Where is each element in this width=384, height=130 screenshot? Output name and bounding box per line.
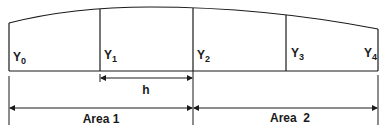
h-label: h (142, 83, 149, 97)
trapezoidal-area-diagram: Y0 Y1 Y2 Y3 Y4 h Area 1 Area 2 (0, 0, 384, 130)
label-y3: Y3 (291, 46, 304, 62)
area1-label: Area 1 (83, 112, 120, 126)
label-y4: Y4 (364, 46, 377, 62)
label-y2: Y2 (197, 48, 210, 64)
area2-label: Area 2 (270, 111, 310, 125)
label-y0: Y0 (13, 50, 26, 66)
label-y1: Y1 (104, 48, 117, 64)
